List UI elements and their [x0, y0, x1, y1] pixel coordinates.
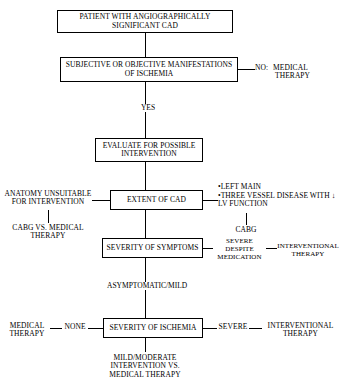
connector-none-to-medical-therapy [50, 328, 62, 329]
branch-mild-moderate-outcome: MILD/MODERATE INTERVENTION VS. MEDICAL T… [95, 354, 195, 379]
node-severity-of-symptoms: SEVERITY OF SYMPTOMS [102, 238, 203, 258]
branch-cabg-vs-medical-therapy: CABG VS. MEDICAL THERAPY [4, 224, 92, 241]
node-extent-of-cad-label: EXTENT OF CAD [124, 196, 189, 204]
connector-manifestations-to-no [238, 69, 255, 70]
node-manifestations-of-ischemia: SUBJECTIVE OR OBJECTIVE MANIFESTATIONS O… [60, 57, 238, 82]
connector-patient-to-manifestations [145, 33, 146, 57]
branch-severe-despite-medication: SEVERE DESPITE MEDICATION [213, 238, 266, 262]
branch-yes-label: YES [134, 104, 162, 112]
connector-symptoms-to-severe-despite-medication [203, 248, 213, 249]
branch-high-risk-bullet-2: THREE VESSEL DISEASE WITH ↓ LV FUNCTION [218, 191, 336, 209]
branch-anatomy-unsuitable: ANATOMY UNSUITABLE FOR INTERVENTION [4, 190, 92, 207]
branch-medical-therapy-none: MEDICAL THERAPY [4, 322, 50, 339]
connector-ischemia-to-none [88, 328, 103, 329]
branch-no-outcome-line2: THERAPY [275, 71, 310, 80]
branch-cabg-outcome: CABG [226, 226, 266, 234]
node-severity-of-ischemia-label: SEVERITY OF ISCHEMIA [106, 324, 199, 332]
connector-high-risk-to-cabg [246, 213, 247, 225]
node-patient-cad-label: PATIENT WITH ANGIOGRAPHICALLY SIGNIFICAN… [58, 13, 232, 30]
node-severity-of-ischemia: SEVERITY OF ISCHEMIA [103, 318, 203, 338]
flowchart-canvas: PATIENT WITH ANGIOGRAPHICALLY SIGNIFICAN… [0, 0, 339, 388]
branch-interventional-therapy-symptoms: INTERVENTIONAL THERAPY [277, 243, 339, 259]
node-manifestations-label: SUBJECTIVE OR OBJECTIVE MANIFESTATIONS O… [61, 61, 237, 78]
connector-extent-to-severity-symptoms [145, 210, 146, 238]
connector-extent-to-high-risk [203, 200, 218, 201]
connector-severe-to-interventional-therapy [249, 328, 262, 329]
node-evaluate-label: EVALUATE FOR POSSIBLE INTERVENTION [96, 142, 202, 159]
connector-evaluate-to-extent [145, 162, 146, 190]
node-severity-of-symptoms-label: SEVERITY OF SYMPTOMS [104, 244, 202, 252]
branch-no-medical-therapy: NO: MEDICAL THERAPY [255, 64, 339, 81]
branch-none-label: NONE [62, 323, 88, 331]
node-patient-cad: PATIENT WITH ANGIOGRAPHICALLY SIGNIFICAN… [57, 10, 233, 33]
branch-asymptomatic-mild-label: ASYMPTOMATIC/MILD [105, 282, 189, 290]
branch-interventional-therapy-ischemia: INTERVENTIONAL THERAPY [262, 322, 339, 339]
node-evaluate-for-intervention: EVALUATE FOR POSSIBLE INTERVENTION [95, 138, 203, 162]
branch-no-label: NO: [255, 63, 268, 72]
connector-anatomy-to-cabg-medical [48, 210, 49, 223]
node-extent-of-cad: EXTENT OF CAD [110, 190, 203, 210]
connector-extent-to-anatomy [92, 200, 110, 201]
connector-ischemia-to-mild-moderate [145, 338, 146, 352]
connector-ischemia-to-severe [203, 328, 217, 329]
connector-severe-despite-to-interventional [266, 248, 277, 249]
branch-high-risk-features: •LEFT MAIN •THREE VESSEL DISEASE WITH ↓ … [218, 183, 339, 209]
branch-severe-label: SEVERE [217, 323, 249, 331]
